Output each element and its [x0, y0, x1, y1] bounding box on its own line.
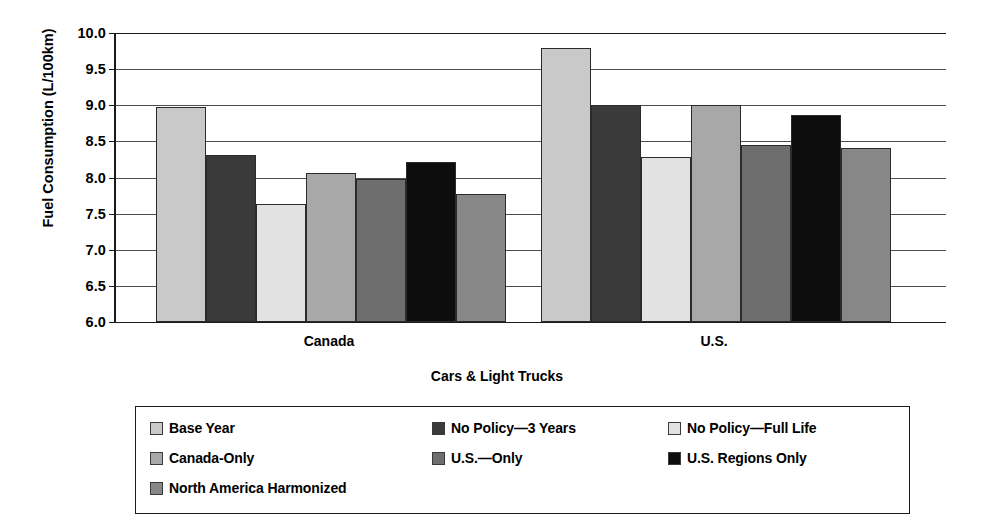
y-axis-tick [109, 141, 116, 142]
legend-label: Base Year [169, 420, 235, 436]
bar [841, 148, 891, 322]
fuel-consumption-bar-chart: Fuel Consumption (L/100km) 10.09.59.08.5… [0, 0, 994, 529]
bar [256, 204, 306, 322]
category-label: U.S. [539, 333, 889, 349]
legend-item[interactable]: U.S.—Only [432, 450, 522, 466]
bar [591, 105, 641, 322]
legend-swatch-icon [432, 422, 445, 435]
bar [691, 105, 741, 322]
legend-item[interactable]: U.S. Regions Only [668, 450, 807, 466]
y-axis-tick-label: 10.0 [24, 26, 106, 41]
y-axis-tick [109, 69, 116, 70]
legend-label: U.S. Regions Only [687, 450, 807, 466]
bar [306, 173, 356, 322]
bar [206, 155, 256, 322]
legend-label: No Policy—3 Years [451, 420, 576, 436]
gridline [116, 322, 946, 323]
y-axis-tick-label: 6.0 [24, 315, 106, 330]
gridline [116, 33, 946, 34]
gridline [116, 105, 946, 106]
y-axis-tick-label: 9.0 [24, 98, 106, 113]
bar [541, 48, 591, 322]
y-axis-tick-label: 8.5 [24, 134, 106, 149]
y-axis-tick [109, 286, 116, 287]
legend-swatch-icon [150, 422, 163, 435]
y-axis-tick [109, 33, 116, 34]
legend-item[interactable]: Base Year [150, 420, 235, 436]
y-axis-tick-label: 7.5 [24, 207, 106, 222]
legend-swatch-icon [668, 452, 681, 465]
bar [156, 107, 206, 322]
gridline [116, 69, 946, 70]
x-axis-title: Cars & Light Trucks [0, 368, 994, 384]
category-label: Canada [154, 333, 504, 349]
plot-area [114, 33, 944, 322]
legend-label: Canada-Only [169, 450, 254, 466]
y-axis-tick [109, 322, 116, 323]
bar [791, 115, 841, 322]
legend-swatch-icon [150, 452, 163, 465]
y-axis-tick [109, 178, 116, 179]
y-axis-tick-label: 7.0 [24, 243, 106, 258]
bar [406, 162, 456, 322]
chart-legend: Base YearNo Policy—3 YearsNo Policy—Full… [135, 406, 910, 514]
y-axis-tick-label: 6.5 [24, 279, 106, 294]
legend-swatch-icon [668, 422, 681, 435]
bar [741, 145, 791, 322]
y-axis-tick [109, 214, 116, 215]
legend-item[interactable]: No Policy—Full Life [668, 420, 817, 436]
y-axis-tick-label: 9.5 [24, 62, 106, 77]
y-axis-tick [109, 105, 116, 106]
bar [456, 194, 506, 322]
y-axis-tick-label: 8.0 [24, 171, 106, 186]
legend-label: No Policy—Full Life [687, 420, 817, 436]
legend-label: North America Harmonized [169, 480, 347, 496]
y-axis-tick [109, 250, 116, 251]
legend-item[interactable]: North America Harmonized [150, 480, 347, 496]
legend-item[interactable]: No Policy—3 Years [432, 420, 576, 436]
legend-item[interactable]: Canada-Only [150, 450, 254, 466]
bar [641, 157, 691, 322]
legend-label: U.S.—Only [451, 450, 522, 466]
y-axis-tick-labels: 10.09.59.08.58.07.57.06.56.0 [24, 33, 106, 322]
bar [356, 179, 406, 322]
legend-swatch-icon [432, 452, 445, 465]
legend-swatch-icon [150, 482, 163, 495]
